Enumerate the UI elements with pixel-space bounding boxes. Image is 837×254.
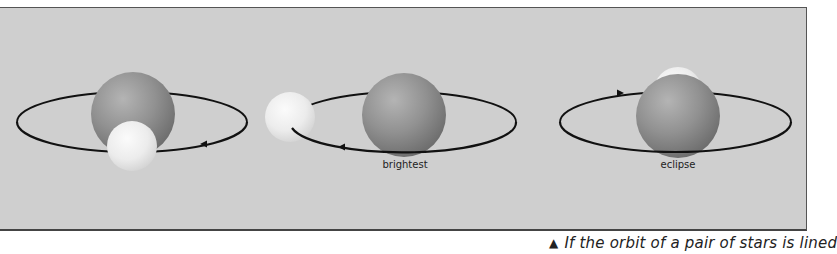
phase-2-group [265, 73, 516, 157]
small-star [107, 121, 157, 171]
large-star [636, 74, 720, 158]
triangle-marker-icon: ▲ [549, 236, 558, 250]
label-eclipse: eclipse [661, 159, 696, 170]
caption-text: If the orbit of a pair of stars is lined [564, 234, 837, 252]
large-star [362, 73, 446, 157]
orbit-direction-arrow-icon [338, 144, 345, 151]
small-star [265, 92, 315, 142]
phase-3-group [560, 67, 791, 158]
phase-1-group [17, 72, 247, 171]
label-brightest: brightest [382, 159, 427, 170]
figure-caption: ▲If the orbit of a pair of stars is line… [549, 234, 837, 252]
